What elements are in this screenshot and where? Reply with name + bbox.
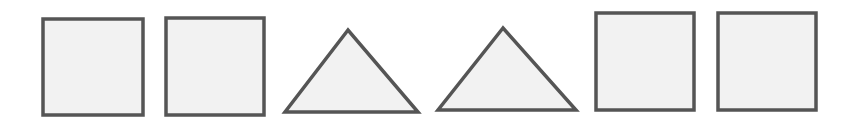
triangle-shape-2 bbox=[438, 28, 576, 110]
square-shape-4 bbox=[718, 13, 816, 110]
square-shape-2 bbox=[166, 18, 264, 115]
square-shape-1 bbox=[43, 19, 143, 115]
square-shape-3 bbox=[596, 13, 694, 110]
triangle-shape-1 bbox=[285, 30, 418, 112]
shapes-drawing bbox=[0, 0, 867, 130]
shape-sequence-figure bbox=[0, 0, 867, 130]
